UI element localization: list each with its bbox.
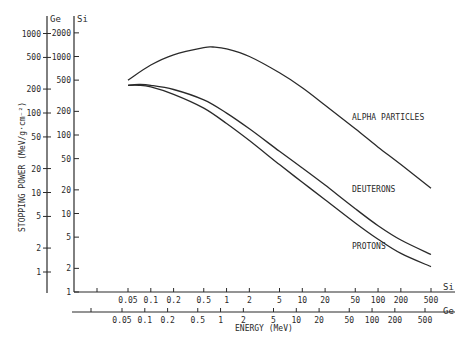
x-tick-label-si: 0.5 — [197, 296, 212, 305]
x-tick-label-ge: 50 — [344, 316, 354, 325]
x-tick-label-ge: 100 — [365, 316, 380, 325]
y-tick-label-ge: 200 — [27, 85, 42, 94]
y-tick-label-ge: 1 — [36, 268, 41, 277]
x-tick-label-ge: 500 — [418, 316, 433, 325]
y-tick-label-si: 10 — [61, 210, 71, 219]
y-tick-label-ge: 20 — [31, 165, 41, 174]
x-tick-label-si: 100 — [371, 296, 386, 305]
y-axis-title: STOPPING POWER (MeV/g·cm⁻²) — [18, 102, 27, 232]
x-tick-label-si: 0.05 — [118, 296, 137, 305]
x-tick-label-ge: 0.05 — [112, 316, 131, 325]
y-tick-label-si: 5 — [66, 233, 71, 242]
y-tick-label-ge: 100 — [27, 109, 42, 118]
x-tick-label-si: 50 — [350, 296, 360, 305]
deuterons-label: DEUTERONS — [352, 185, 396, 194]
x-tick-label-ge: 200 — [388, 316, 403, 325]
y-tick-label-ge: 5 — [36, 212, 41, 221]
y-tick-label-si: 200 — [57, 107, 72, 116]
y-tick-label-si: 2000 — [52, 29, 71, 38]
x-tick-label-si: 1 — [224, 296, 229, 305]
y-tick-label-si: 100 — [57, 131, 72, 140]
curves — [128, 47, 431, 267]
y-tick-label-ge: 50 — [31, 133, 41, 142]
y-tick-label-ge: 500 — [27, 53, 42, 62]
y-tick-label-ge: 2 — [36, 244, 41, 253]
x-tick-label-si: 20 — [320, 296, 330, 305]
x-tick-label-si: 500 — [424, 296, 439, 305]
y-tick-label-si: 1 — [66, 288, 71, 297]
y-tick-label-si: 50 — [61, 155, 71, 164]
x-tick-label-ge: 20 — [314, 316, 324, 325]
deuterons-curve — [128, 84, 431, 254]
x-tick-label-si: 0.1 — [144, 296, 159, 305]
x-axis-title: ENERGY (MeV) — [235, 324, 293, 333]
x-tick-label-ge: 0.1 — [138, 316, 153, 325]
y-tick-label-ge: 1000 — [22, 30, 41, 39]
y-axis-si-label: Si — [77, 14, 88, 24]
x-tick-label-ge: 0.2 — [160, 316, 175, 325]
x-tick-label-si: 0.2 — [166, 296, 181, 305]
y-tick-label-si: 2 — [66, 264, 71, 273]
x-tick-label-ge: 1 — [218, 316, 223, 325]
protons-label: PROTONS — [352, 242, 386, 251]
x-axis-si-label: Si — [443, 282, 454, 292]
chart-canvas: 1251020501002005001000125102050100200500… — [0, 0, 468, 346]
x-tick-label-si: 10 — [297, 296, 307, 305]
axes: 1251020501002005001000125102050100200500… — [22, 16, 455, 325]
x-tick-label-ge: 0.5 — [191, 316, 206, 325]
alpha-particles-label: ALPHA PARTICLES — [352, 113, 424, 122]
y-tick-label-si: 1000 — [52, 53, 71, 62]
x-tick-label-si: 200 — [394, 296, 409, 305]
y-tick-label-ge: 10 — [31, 189, 41, 198]
y-tick-label-si: 500 — [57, 76, 72, 85]
x-tick-label-si: 2 — [247, 296, 252, 305]
x-axis-ge-label: Ge — [443, 306, 454, 316]
x-tick-label-si: 5 — [277, 296, 282, 305]
stopping-power-chart: 1251020501002005001000125102050100200500… — [0, 0, 468, 346]
x-tick-label-ge: 10 — [291, 316, 301, 325]
y-axis-ge-label: Ge — [50, 14, 61, 24]
y-tick-label-si: 20 — [61, 186, 71, 195]
